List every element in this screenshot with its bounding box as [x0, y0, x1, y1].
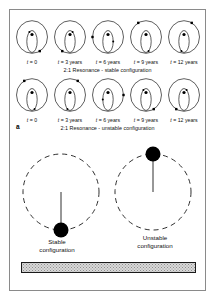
- orbit-snapshot: [166, 15, 202, 61]
- config-label-stable-line1: Stable: [48, 238, 66, 245]
- panel-a-resonance-snapshots: t = 0t = 3 yearst = 6 yearst = 9 yearst …: [10, 10, 205, 138]
- time-value: = 6 years: [97, 59, 120, 65]
- orbit-snapshot: [52, 15, 88, 61]
- time-value: = 9 years: [135, 59, 158, 65]
- time-label: t = 12 years: [162, 59, 206, 66]
- orbit-snapshot: [14, 15, 50, 61]
- time-value: = 6 years: [97, 117, 120, 123]
- orbit-snapshot: [52, 73, 88, 119]
- time-value: = 12 years: [172, 59, 198, 65]
- time-value: = 0: [28, 117, 37, 123]
- config-label-unstable-line1: Unstable: [143, 234, 167, 241]
- time-value: = 3 years: [59, 117, 82, 123]
- time-value: = 9 years: [135, 117, 158, 123]
- time-value: = 12 years: [172, 117, 198, 123]
- orbit-row-unstable: [10, 73, 205, 119]
- orbit-snapshot: [128, 73, 164, 119]
- time-value: = 3 years: [59, 59, 82, 65]
- orbit-row-stable: [10, 15, 205, 61]
- orbit-snapshot: [90, 15, 126, 61]
- orbit-snapshot: [166, 73, 202, 119]
- time-label: t = 12 years: [162, 117, 206, 124]
- config-label-unstable-line2: configuration: [137, 242, 172, 249]
- config-label-unstable: Unstable configuration: [120, 234, 190, 250]
- orbit-snapshot: [14, 73, 50, 119]
- config-label-stable: Stable configuration: [22, 238, 92, 254]
- panel-letter-a: a: [16, 123, 20, 130]
- config-label-stable-line2: configuration: [39, 246, 74, 253]
- time-value: = 0: [28, 59, 37, 65]
- stipple-bar: [21, 262, 196, 273]
- figure-frame: t = 0t = 3 yearst = 6 yearst = 9 yearst …: [9, 9, 206, 291]
- orbit-snapshot: [128, 15, 164, 61]
- panel-b-configurations: Stable configuration Unstable configurat…: [10, 138, 205, 292]
- caption-unstable-configuration: 2:1 Resonance - unstable configuration: [10, 125, 205, 132]
- orbit-snapshot: [90, 73, 126, 119]
